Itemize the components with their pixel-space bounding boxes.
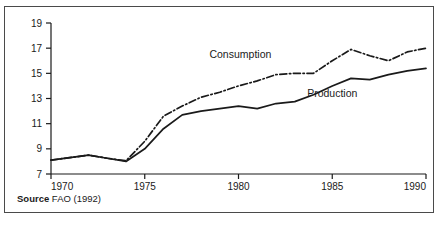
x-axis-tick-label: 1990 [404,181,427,192]
series-label-production: Production [307,87,357,99]
y-axis-tick-label: 13 [31,93,43,104]
y-axis: 791113151719 [31,18,51,180]
y-axis-tick-label: 17 [31,43,43,54]
y-axis-tick-label: 15 [31,68,43,79]
y-axis-tick-label: 19 [31,18,43,29]
x-axis-tick-label: 1980 [227,181,250,192]
y-axis-tick-label: 11 [32,118,43,129]
line-chart: 791113151719 19701975198019851990 Consum… [5,7,435,192]
x-axis-tick-label: 1985 [321,181,344,192]
data-series-group [51,48,426,161]
y-axis-tick-label: 7 [36,169,42,180]
x-axis-tick-label: 1970 [51,181,74,192]
source-keyword: Source [17,193,49,204]
series-line-consumption [51,48,426,161]
series-label-consumption: Consumption [209,48,271,60]
y-axis-tick-label: 9 [36,143,42,154]
bottom-cutoff-text [8,221,208,228]
source-value: FAO (1992) [49,193,101,204]
chart-plot-area: 791113151719 19701975198019851990 Consum… [5,7,435,192]
figure-box: 791113151719 19701975198019851990 Consum… [4,6,434,213]
source-note: Source FAO (1992) [17,193,101,205]
x-axis-tick-label: 1975 [134,181,157,192]
series-line-production [51,68,426,161]
x-axis: 19701975198019851990 [51,174,426,192]
